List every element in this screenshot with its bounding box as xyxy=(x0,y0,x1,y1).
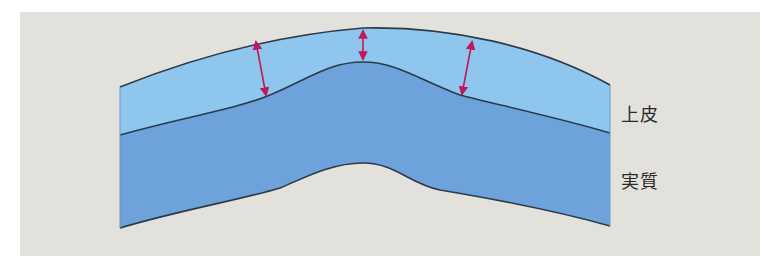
epithelium-label: 上皮 xyxy=(621,100,659,126)
cornea-cross-section-diagram xyxy=(0,0,783,271)
stroma-label: 実質 xyxy=(621,167,659,193)
